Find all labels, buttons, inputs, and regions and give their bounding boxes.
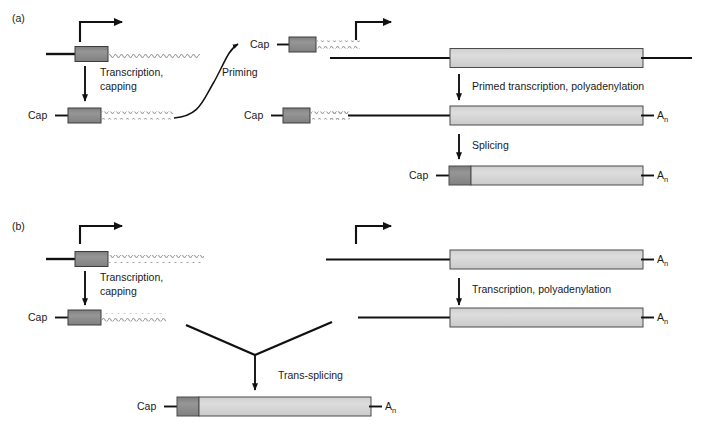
panel-b: (b) Transcription, capping Cap (12, 220, 668, 416)
target-gene-b-top: An (326, 226, 668, 269)
mini-exon-box (75, 252, 108, 267)
y-arm-right (255, 322, 332, 355)
polya-label-b-1: An (657, 253, 668, 268)
capped-sl-rna-b: Cap (28, 310, 166, 325)
label-priming: Priming (222, 66, 258, 78)
exon-box (450, 106, 643, 125)
process-diagram: (a) Transcription, capping Cap (0, 0, 711, 431)
promoter-arrow-icon (356, 22, 391, 40)
cap-label-a-left: Cap (28, 109, 47, 121)
exon-box (450, 49, 643, 68)
step-arrow-transcription-capping-b: Transcription, capping (85, 271, 163, 305)
polya-label-b-2: An (657, 311, 668, 326)
figure-root: (a) Transcription, capping Cap (0, 0, 711, 431)
label-transcription-capping-a-line1: Transcription, (100, 66, 163, 78)
polya-label-a-1: An (657, 109, 668, 124)
primed-premrna-a: An (330, 106, 668, 125)
exon-box (471, 166, 643, 185)
exon-box (450, 250, 643, 269)
gene-b-left-top (46, 226, 204, 267)
label-primed-transcription-polyadenylation: Primed transcription, polyadenylation (472, 80, 644, 92)
promoter-arrow-icon (80, 22, 122, 42)
cap-label-b-left: Cap (28, 311, 47, 323)
mini-exon-box (289, 37, 316, 52)
target-gene-a-top (330, 22, 692, 68)
label-transcription-polyadenylation: Transcription, polyadenylation (472, 283, 611, 295)
panel-a-label: (a) (12, 12, 25, 24)
polya-label-b-3: An (385, 400, 396, 415)
mini-exon-box (283, 108, 310, 123)
mini-exon-box (177, 397, 199, 416)
exon-box (199, 397, 371, 416)
label-transcription-capping-b-line2: capping (100, 285, 137, 297)
polya-label-a-2: An (657, 169, 668, 184)
panel-b-label: (b) (12, 220, 25, 232)
cap-label-a-mature: Cap (409, 169, 428, 181)
trans-spliced-mrna-b: Cap An (137, 397, 396, 416)
capped-rna-a-left: Cap (28, 108, 173, 123)
step-arrow-trans-splicing: Trans-splicing (186, 322, 343, 390)
mini-exon-box (68, 310, 101, 325)
premrna-b: An (358, 308, 668, 327)
wavy-rna-segment (101, 112, 173, 120)
y-arm-left (186, 325, 255, 355)
step-arrow-transcription-capping-a: Transcription, capping (85, 66, 163, 101)
wavy-rna-segment (330, 112, 350, 120)
cap-label-a-mid-right: Cap (244, 109, 263, 121)
step-arrow-primed-transcription-a: Primed transcription, polyadenylation (459, 74, 644, 100)
label-transcription-capping-b-line1: Transcription, (100, 271, 163, 283)
wavy-rna-segment (316, 41, 360, 49)
exon-box (450, 308, 643, 327)
gene-a-left-top (46, 22, 200, 62)
panel-a: (a) Transcription, capping Cap (12, 12, 692, 185)
primer-rna-a-top: Cap (250, 37, 360, 52)
label-splicing: Splicing (472, 139, 509, 151)
mature-mrna-a: Cap An (409, 166, 668, 185)
mini-exon-box (75, 47, 108, 62)
wavy-rna-segment (101, 314, 166, 322)
cap-label-b-mature: Cap (137, 400, 156, 412)
promoter-arrow-icon (80, 226, 122, 244)
mini-exon-box (449, 166, 471, 185)
step-arrow-transcription-polyadenylation-b: Transcription, polyadenylation (459, 278, 611, 305)
wavy-rna-segment (108, 255, 204, 263)
label-transcription-capping-a-line2: capping (100, 80, 137, 92)
promoter-arrow-icon (356, 226, 391, 244)
wavy-rna-segment (108, 50, 200, 58)
step-arrow-splicing-a: Splicing (459, 134, 509, 159)
mini-exon-box (68, 108, 101, 123)
label-trans-splicing: Trans-splicing (278, 369, 343, 381)
cap-label-a-top-right: Cap (250, 38, 269, 50)
